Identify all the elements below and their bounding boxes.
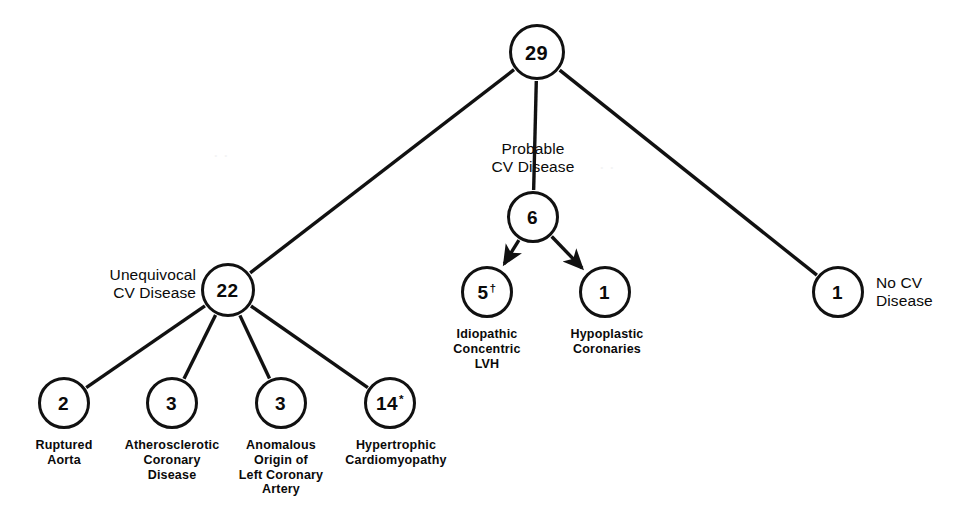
node-hypoplastic-1[interactable]: 1 (579, 266, 631, 318)
node-hypoplastic-value: 1 (599, 282, 611, 302)
diagram-canvas: · · · · 29 22 6 1 5† 1 2 3 3 14* Probabl… (0, 0, 973, 522)
node-ruptured-aorta-value: 2 (58, 393, 70, 413)
label-hypertrophic-cardiomyopathy: Hypertrophic Cardiomyopathy (345, 438, 446, 468)
node-anomalous-value: 3 (275, 393, 287, 413)
edge-root-to-unequivocal (250, 70, 514, 273)
node-no-cv-disease-value: 1 (832, 282, 844, 302)
label-hypoplastic-coronaries: Hypoplastic Coronaries (570, 327, 643, 357)
label-anomalous-origin-left-coronary-artery: Anomalous Origin of Left Coronary Artery (239, 438, 324, 497)
node-root-29[interactable]: 29 (509, 24, 565, 80)
label-idiopathic-concentric-lvh: Idiopathic Concentric LVH (453, 327, 520, 371)
node-root-value: 29 (525, 42, 549, 63)
node-ruptured-aorta-2[interactable]: 2 (38, 377, 90, 429)
label-unequivocal-cv-disease: Unequivocal CV Disease (110, 266, 196, 303)
node-unequivocal-value: 22 (216, 280, 239, 300)
label-atherosclerotic-coronary-disease: Atherosclerotic Coronary Disease (125, 438, 220, 482)
edge-probable-to-hypoplastic (552, 236, 582, 268)
edge-unequivocal-to-anomalous (240, 315, 270, 378)
label-no-cv-disease: No CV Disease (876, 274, 933, 311)
node-anomalous-3[interactable]: 3 (255, 377, 307, 429)
node-atherosclerotic-3[interactable]: 3 (146, 377, 198, 429)
node-hypertrophic-value: 14* (376, 393, 404, 413)
node-idiopathic-value: 5† (477, 282, 496, 302)
node-probable-6[interactable]: 6 (507, 191, 559, 243)
scan-artifact-top: · · (214, 148, 229, 163)
edge-probable-to-idiopathic (504, 240, 519, 264)
node-idiopathic-5[interactable]: 5† (461, 266, 513, 318)
node-unequivocal-22[interactable]: 22 (201, 263, 255, 317)
label-ruptured-aorta: Ruptured Aorta (35, 438, 92, 468)
node-probable-value: 6 (527, 207, 539, 227)
node-no-cv-disease-1[interactable]: 1 (812, 266, 864, 318)
node-hypertrophic-14[interactable]: 14* (364, 377, 416, 429)
scan-artifact-mid: · · (600, 160, 615, 175)
label-probable-cv-disease: Probable CV Disease (492, 140, 575, 177)
node-atherosclerotic-value: 3 (166, 393, 178, 413)
edge-unequivocal-to-atherosclerotic (184, 315, 216, 379)
edge-root-to-nocv (560, 70, 817, 275)
